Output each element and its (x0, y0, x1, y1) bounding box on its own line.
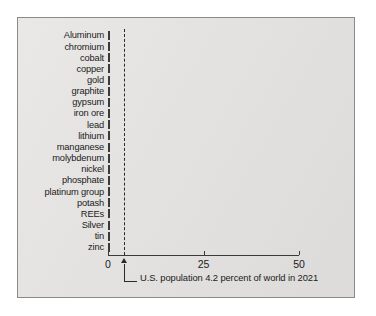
bar (108, 53, 110, 62)
bar (108, 87, 110, 96)
category-label: gypsum (18, 97, 104, 107)
x-axis-tick-label: 25 (198, 258, 210, 270)
category-label: graphite (18, 86, 104, 96)
bar-row (108, 42, 110, 51)
bar-row (108, 154, 272, 163)
bar-row (108, 209, 114, 218)
bar (108, 232, 110, 241)
bar-row (108, 131, 116, 140)
us-population-reference-line (124, 29, 125, 255)
bar (108, 98, 110, 107)
x-axis-tick (299, 251, 300, 255)
category-label: cobalt (18, 53, 104, 63)
category-label: copper (18, 64, 104, 74)
bar-row (108, 165, 133, 174)
annotation-leader-line (124, 264, 137, 282)
bar (108, 176, 110, 185)
category-label: tin (18, 231, 104, 241)
bar (108, 31, 110, 40)
x-axis-tick (108, 251, 109, 255)
reference-arrow-icon (121, 258, 127, 263)
bar (108, 76, 110, 85)
category-label: zinc (18, 242, 104, 252)
category-label: chromium (18, 42, 104, 52)
bar-row (108, 76, 135, 85)
bar (108, 154, 110, 163)
category-label: REEs (18, 209, 104, 219)
category-label: lithium (18, 131, 104, 141)
bar-row (108, 87, 125, 96)
bar (108, 198, 110, 207)
bar-chart-plot-area: Aluminumchromiumcobaltcoppergoldgraphite… (18, 18, 354, 297)
bar-row (108, 243, 131, 252)
category-label: nickel (18, 164, 104, 174)
category-label: phosphate (18, 175, 104, 185)
us-population-annotation: U.S. population 4.2 percent of world in … (140, 272, 318, 283)
bar-row (108, 187, 234, 196)
category-label: lead (18, 120, 104, 130)
bar (108, 64, 110, 73)
chart-figure: Aluminumchromiumcobaltcoppergoldgraphite… (17, 17, 355, 298)
bar-row (108, 198, 169, 207)
bar (108, 143, 110, 152)
bar-row (108, 109, 112, 118)
category-label: iron ore (18, 108, 104, 118)
x-axis-tick (204, 251, 205, 255)
category-label: molybdenum (18, 153, 104, 163)
bar (108, 131, 110, 140)
bar-row (108, 31, 133, 40)
category-label: Silver (18, 220, 104, 230)
x-axis-tick-label: 50 (293, 258, 305, 270)
category-label: Aluminum (18, 30, 104, 40)
bar (108, 221, 110, 230)
bar (108, 109, 110, 118)
bar (108, 120, 110, 129)
bar (108, 209, 110, 218)
bar (108, 165, 110, 174)
bar-row (108, 232, 165, 241)
x-axis-tick-label: 0 (105, 258, 111, 270)
bar-row (108, 120, 247, 129)
x-axis-line (108, 255, 299, 256)
category-label: potash (18, 198, 104, 208)
category-label: gold (18, 75, 104, 85)
category-label: platinum group (18, 187, 104, 197)
bar-row (108, 176, 148, 185)
bar-row (108, 221, 234, 230)
category-label: manganese (18, 142, 104, 152)
bar-row (108, 53, 123, 62)
bar (108, 187, 110, 196)
bar (108, 42, 110, 51)
bar-row (108, 143, 119, 152)
